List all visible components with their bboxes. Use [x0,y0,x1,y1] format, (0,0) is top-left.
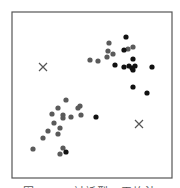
data-point [93,114,98,119]
data-point [57,125,62,130]
data-point [110,51,115,56]
data-point [95,58,100,63]
data-point [121,47,126,52]
data-point [112,62,117,67]
scatter-plot [0,0,180,188]
data-point [63,97,68,102]
data-point [55,131,60,136]
data-point [130,67,135,72]
data-point [104,54,109,59]
data-point [144,90,149,95]
data-point [130,84,135,89]
data-point [40,135,45,140]
data-point [105,48,110,53]
data-point [55,105,60,110]
data-point [30,146,35,151]
data-point [87,57,92,62]
data-point [78,112,83,117]
data-point [49,111,54,116]
data-point [121,64,126,69]
data-point [51,120,56,125]
data-point [45,128,50,133]
data-point [123,34,128,39]
data-point [68,114,73,119]
figure-caption: 図 13.3 対話型K-平均法 [0,183,180,188]
data-point [63,149,68,154]
data-point [130,44,135,49]
data-point [57,151,62,156]
data-point [106,40,111,45]
data-point [149,64,154,69]
data-point [130,56,135,61]
data-point [60,115,65,120]
data-point [75,105,80,110]
